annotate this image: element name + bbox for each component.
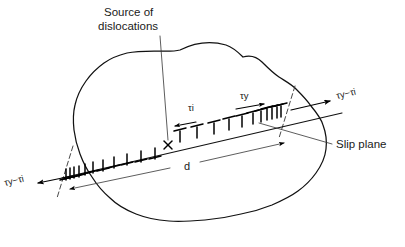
net-stress-left-label: τy−τi xyxy=(3,173,25,188)
dislocation-symbol xyxy=(255,108,267,122)
grain-diameter-label: d xyxy=(184,160,190,172)
grain-boundary-outline xyxy=(73,43,326,222)
dislocation-diagram: Source of dislocations Slip plane τi τy … xyxy=(0,0,405,247)
tau-i-arrow xyxy=(175,122,196,126)
net-stress-right-arrow xyxy=(291,101,330,110)
slip-plane-callout-leader xyxy=(259,123,332,144)
tau-i-label: τi xyxy=(188,102,194,113)
source-callout-line1: Source of xyxy=(104,6,154,18)
source-callout-line2: dislocations xyxy=(98,20,158,32)
dislocation-symbol xyxy=(191,124,203,138)
dislocation-symbol xyxy=(223,116,235,130)
diagram-canvas: Source of dislocations Slip plane τi τy … xyxy=(0,0,405,247)
dislocation-symbol xyxy=(208,120,220,134)
tau-y-arrow xyxy=(236,104,264,109)
dislocation-symbol xyxy=(247,110,259,124)
slip-plane-line xyxy=(62,113,342,178)
dislocation-symbol xyxy=(174,128,186,142)
net-stress-right-label: τy−τi xyxy=(335,86,357,101)
slip-plane-callout: Slip plane xyxy=(336,138,387,150)
tau-y-label: τy xyxy=(240,90,249,101)
dislocation-source-marker xyxy=(164,141,172,149)
net-stress-left-arrow xyxy=(38,176,72,183)
grain-diameter-dimension xyxy=(70,143,284,189)
dislocation-symbol xyxy=(236,113,248,127)
